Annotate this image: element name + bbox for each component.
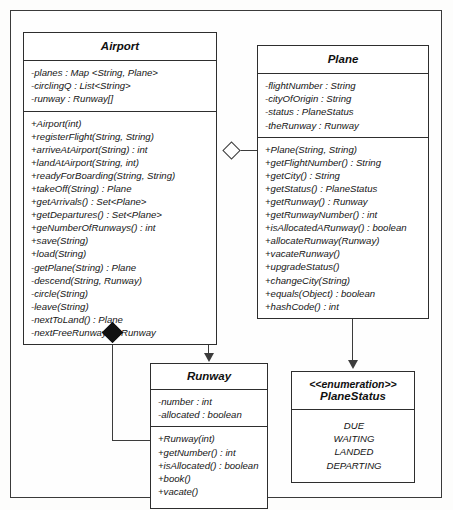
attribute-row: -allocated : boolean bbox=[158, 408, 262, 421]
operation-row: +vacate() bbox=[158, 485, 262, 498]
operation-row: +registerFlight(String, String) bbox=[31, 130, 211, 143]
connector-composition-horizontal bbox=[112, 440, 151, 441]
operation-row: -descend(String, Runway) bbox=[31, 274, 211, 287]
attributes-compartment-plane: -flightNumber : String -cityOfOrigin : S… bbox=[258, 74, 428, 137]
operation-row: +getRunwayNumber() : int bbox=[265, 208, 423, 221]
operation-row: +getCity() : String bbox=[265, 169, 423, 182]
class-name-airport: Airport bbox=[24, 33, 216, 61]
attribute-row: -status : PlaneStatus bbox=[265, 105, 423, 118]
operation-row: +Plane(String, String) bbox=[265, 143, 423, 156]
operation-row: +getStatus() : PlaneStatus bbox=[265, 182, 423, 195]
connector-composition-vertical bbox=[112, 338, 113, 440]
enum-literal-row: DUE bbox=[299, 419, 409, 432]
attribute-row: -circlingQ : List<String> bbox=[31, 79, 211, 92]
operation-row: +takeOff(String) : Plane bbox=[31, 182, 211, 195]
enum-literal-row: LANDED bbox=[299, 445, 409, 458]
operation-row: +hashCode() : int bbox=[265, 300, 423, 313]
attribute-row: -runway : Runway[] bbox=[31, 92, 211, 105]
attribute-row: -number : int bbox=[158, 395, 262, 408]
attributes-compartment-runway: -number : int -allocated : boolean bbox=[151, 390, 267, 427]
operation-row: +vacateRunway() bbox=[265, 247, 423, 260]
operation-row: -getPlane(String) : Plane bbox=[31, 261, 211, 274]
operation-row: -leave(String) bbox=[31, 300, 211, 313]
class-box-planestatus[interactable]: <<enumeration>> PlaneStatus DUE WAITING … bbox=[291, 371, 415, 483]
operations-compartment-airport: +Airport(int) +registerFlight(String, St… bbox=[24, 112, 216, 345]
operation-row: +isAllocatedARunway() : boolean bbox=[265, 221, 423, 234]
operation-row: +equals(Object) : boolean bbox=[265, 287, 423, 300]
operation-row: +readyForBoarding(String, String) bbox=[31, 169, 211, 182]
attribute-row: -flightNumber : String bbox=[265, 79, 423, 92]
class-name-plane: Plane bbox=[258, 46, 428, 74]
operation-row: +getFlightNumber() : String bbox=[265, 156, 423, 169]
operation-row: +allocateRunway(Runway) bbox=[265, 234, 423, 247]
operation-row: +book() bbox=[158, 472, 262, 485]
attribute-row: -theRunway : Runway bbox=[265, 119, 423, 132]
operation-row: +save(String) bbox=[31, 234, 211, 247]
class-box-plane[interactable]: Plane -flightNumber : String -cityOfOrig… bbox=[257, 45, 429, 319]
class-name-runway: Runway bbox=[151, 364, 267, 390]
operation-row: +Runway(int) bbox=[158, 432, 262, 445]
operation-row: +getRunway() : Runway bbox=[265, 195, 423, 208]
class-box-runway[interactable]: Runway -number : int -allocated : boolea… bbox=[150, 363, 268, 509]
operation-row: +getNumber() : int bbox=[158, 446, 262, 459]
operation-row: +changeCity(String) bbox=[265, 274, 423, 287]
operation-row: +getDepartures() : Set<Plane> bbox=[31, 208, 211, 221]
operation-row: +load(String) bbox=[31, 247, 211, 260]
operation-row: +upgradeStatus() bbox=[265, 260, 423, 273]
arrowhead-planestatus bbox=[348, 360, 358, 369]
operations-compartment-runway: +Runway(int) +getNumber() : int +isAlloc… bbox=[151, 427, 267, 508]
enumeration-name: PlaneStatus bbox=[320, 390, 386, 402]
operation-row: +arriveAtAirport(String) : int bbox=[31, 143, 211, 156]
class-box-airport[interactable]: Airport -planes : Map <String, Plane> -c… bbox=[23, 32, 217, 345]
attribute-row: -cityOfOrigin : String bbox=[265, 92, 423, 105]
enumeration-stereotype: <<enumeration>> bbox=[294, 378, 412, 390]
operations-compartment-plane: +Plane(String, String) +getFlightNumber(… bbox=[258, 138, 428, 318]
enum-literal-row: WAITING bbox=[299, 432, 409, 445]
diagram-canvas: Airport -planes : Map <String, Plane> -c… bbox=[0, 0, 453, 510]
operation-row: -nextToLand() : Plane bbox=[31, 313, 211, 326]
arrowhead-runway bbox=[204, 353, 214, 362]
enumeration-header-planestatus: <<enumeration>> PlaneStatus bbox=[292, 372, 414, 410]
operation-row: +landAtAirport(String, int) bbox=[31, 156, 211, 169]
operation-row: -circle(String) bbox=[31, 287, 211, 300]
operation-row: +geNumberOfRunways() : int bbox=[31, 221, 211, 234]
literals-compartment-planestatus: DUE WAITING LANDED DEPARTING bbox=[292, 410, 414, 482]
attributes-compartment-airport: -planes : Map <String, Plane> -circlingQ… bbox=[24, 61, 216, 111]
operation-row: +getArrivals() : Set<Plane> bbox=[31, 195, 211, 208]
operation-row: +Airport(int) bbox=[31, 117, 211, 130]
enum-literal-row: DEPARTING bbox=[299, 459, 409, 472]
attribute-row: -planes : Map <String, Plane> bbox=[31, 66, 211, 79]
operation-row: +isAllocated() : boolean bbox=[158, 459, 262, 472]
